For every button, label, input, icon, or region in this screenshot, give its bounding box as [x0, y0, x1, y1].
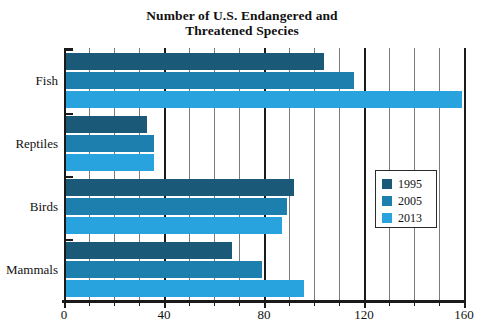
chart-title: Number of U.S. Endangered and Threatened… [0, 8, 484, 38]
category-label-fish: Fish [0, 73, 58, 89]
group-tick-reptiles [64, 113, 73, 115]
x-tick-label-80: 80 [244, 307, 284, 323]
legend-item-2005[interactable]: 2005 [382, 193, 436, 208]
bar-birds-2005 [66, 198, 287, 215]
category-label-birds: Birds [0, 199, 58, 215]
x-tick-10 [89, 300, 90, 306]
bar-mammals-2013 [66, 280, 304, 297]
bar-mammals-1995 [66, 242, 232, 259]
bar-chart: Number of U.S. Endangered and Threatened… [0, 0, 484, 329]
bar-fish-1995 [66, 53, 324, 70]
gridline-120 [364, 48, 366, 300]
legend-swatch-2013 [382, 213, 392, 223]
group-tick-mammals [64, 239, 73, 241]
x-tick-130 [389, 300, 390, 306]
legend-label-1995: 1995 [398, 178, 422, 190]
x-tick-110 [339, 300, 340, 306]
x-tick-30 [139, 300, 140, 306]
legend-item-2013[interactable]: 2013 [382, 210, 436, 225]
cropped-text-artifact [38, 0, 208, 6]
x-tick-label-0: 0 [44, 307, 84, 323]
bar-mammals-2005 [66, 261, 262, 278]
gridline-150 [439, 48, 440, 300]
x-tick-label-160: 160 [444, 307, 484, 323]
chart-title-line-2: Threatened Species [0, 23, 484, 38]
x-tick-label-40: 40 [144, 307, 184, 323]
bar-fish-2005 [66, 72, 354, 89]
bar-reptiles-2013 [66, 154, 154, 171]
bar-birds-2013 [66, 217, 282, 234]
x-tick-label-120: 120 [344, 307, 384, 323]
bar-birds-1995 [66, 179, 294, 196]
legend-label-2005: 2005 [398, 195, 422, 207]
legend-item-1995[interactable]: 1995 [382, 176, 436, 191]
category-label-mammals: Mammals [0, 262, 58, 278]
category-label-reptiles: Reptiles [0, 136, 58, 152]
legend-swatch-2005 [382, 196, 392, 206]
x-tick-60 [214, 300, 215, 306]
legend[interactable]: 1995 2005 2013 [375, 170, 437, 228]
y-axis-top-cap [64, 48, 73, 51]
x-tick-150 [439, 300, 440, 306]
x-tick-140 [414, 300, 415, 306]
x-tick-100 [314, 300, 315, 306]
bar-reptiles-2005 [66, 135, 154, 152]
x-tick-90 [289, 300, 290, 306]
group-tick-birds [64, 176, 73, 178]
gridline-160 [464, 48, 466, 300]
bar-fish-2013 [66, 91, 462, 108]
x-tick-50 [189, 300, 190, 306]
x-tick-20 [114, 300, 115, 306]
x-tick-70 [239, 300, 240, 306]
legend-swatch-1995 [382, 179, 392, 189]
bar-reptiles-1995 [66, 116, 147, 133]
legend-label-2013: 2013 [398, 212, 422, 224]
chart-title-line-1: Number of U.S. Endangered and [146, 8, 337, 23]
